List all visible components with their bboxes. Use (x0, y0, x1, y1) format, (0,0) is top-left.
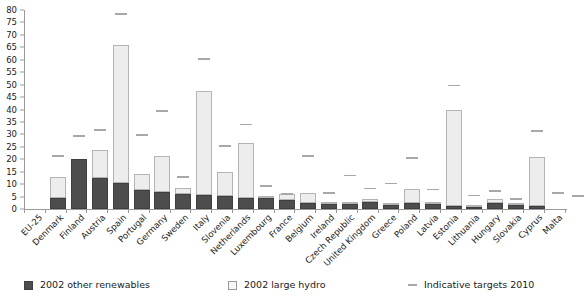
y-tick-mark (20, 72, 24, 73)
bar-segment-large-hydro (113, 45, 129, 183)
bar-group (279, 10, 295, 209)
bar-group (529, 10, 545, 209)
x-tick-mark (315, 209, 316, 213)
y-tick-label: 75 (0, 18, 17, 27)
x-axis-line (24, 209, 567, 210)
x-tick-mark (66, 209, 67, 213)
bar-segment-other-renewables (529, 206, 545, 209)
x-tick-mark (128, 209, 129, 213)
x-tick-mark (86, 209, 87, 213)
bar-group (258, 10, 274, 209)
bar-segment-other-renewables (196, 195, 212, 209)
bar-segment-other-renewables (362, 202, 378, 209)
y-tick-mark (20, 159, 24, 160)
x-tick-mark (461, 209, 462, 213)
indicative-target-marker (510, 198, 522, 200)
bar-segment-large-hydro (196, 91, 212, 194)
indicative-target-marker (323, 192, 335, 194)
indicative-target-marker (552, 192, 564, 194)
x-tick-mark (253, 209, 254, 213)
legend-item-large-hydro: 2002 large hydro (228, 280, 325, 290)
bar-segment-other-renewables (50, 198, 66, 209)
y-tick-mark (20, 97, 24, 98)
bar-group (487, 10, 503, 209)
x-tick-mark (190, 209, 191, 213)
y-tick-label: 10 (0, 180, 17, 189)
bar-segment-other-renewables (113, 183, 129, 209)
bar-segment-other-renewables (175, 194, 191, 209)
x-tick-mark (45, 209, 46, 213)
bar-segment-other-renewables (446, 206, 462, 209)
bar-segment-other-renewables (404, 203, 420, 209)
y-tick-mark (20, 109, 24, 110)
legend-item-other-renewables: 2002 other renewables (24, 280, 150, 290)
indicative-target-marker (468, 195, 480, 197)
legend-label-large-hydro: 2002 large hydro (244, 280, 325, 290)
y-tick-mark (20, 196, 24, 197)
x-tick-mark (398, 209, 399, 213)
indicative-target-marker (406, 157, 418, 159)
indicative-target-marker (344, 175, 356, 177)
bar-group (71, 10, 87, 209)
bar-segment-other-renewables (279, 200, 295, 209)
bar-segment-large-hydro (404, 189, 420, 203)
bar-group (175, 10, 191, 209)
indicative-target-marker (73, 135, 85, 137)
bar-group (217, 10, 233, 209)
indicative-target-marker (385, 183, 397, 185)
x-tick-mark (357, 209, 358, 213)
x-tick-mark (107, 209, 108, 213)
y-tick-label: 15 (0, 167, 17, 176)
legend-label-indicative-targets: Indicative targets 2010 (424, 280, 534, 290)
x-tick-mark (502, 209, 503, 213)
bar-group (134, 10, 150, 209)
y-tick-label: 55 (0, 68, 17, 77)
bar-group (383, 10, 399, 209)
y-tick-label: 25 (0, 143, 17, 152)
bar-segment-other-renewables (487, 203, 503, 209)
indicative-target-marker (136, 134, 148, 136)
y-tick-label: 30 (0, 130, 17, 139)
bar-group (113, 10, 129, 209)
indicative-target-marker (364, 188, 376, 190)
x-tick-mark (232, 209, 233, 213)
y-tick-label: 35 (0, 118, 17, 127)
indicative-target-marker (448, 85, 460, 87)
bar-segment-other-renewables (258, 198, 274, 209)
y-tick-mark (20, 184, 24, 185)
bar-segment-other-renewables (383, 205, 399, 209)
indicative-target-marker (572, 195, 584, 197)
y-tick-label: 40 (0, 105, 17, 114)
y-tick-mark (20, 84, 24, 85)
indicative-target-marker (198, 58, 210, 60)
bar-group (404, 10, 420, 209)
bar-group (92, 10, 108, 209)
indicative-target-marker (240, 124, 252, 126)
bar-group (570, 10, 586, 209)
x-tick-mark (274, 209, 275, 213)
x-tick-mark (294, 209, 295, 213)
y-tick-label: 45 (0, 93, 17, 102)
bar-segment-large-hydro (217, 172, 233, 196)
indicative-target-marker (94, 129, 106, 131)
y-tick-label: 0 (0, 205, 17, 214)
bar-segment-other-renewables (154, 192, 170, 209)
y-tick-mark (20, 47, 24, 48)
bar-group (50, 10, 66, 209)
bar-segment-other-renewables (92, 178, 108, 209)
bar-segment-other-renewables (217, 196, 233, 209)
bar-group (196, 10, 212, 209)
x-tick-mark (211, 209, 212, 213)
indicative-target-marker (531, 130, 543, 132)
indicative-target-marker (281, 193, 293, 195)
dash-line-icon (408, 284, 417, 286)
square-outline-icon (228, 281, 237, 290)
bar-group (238, 10, 254, 209)
bar-group (300, 10, 316, 209)
bar-segment-other-renewables (466, 207, 482, 209)
indicative-target-marker (177, 176, 189, 178)
y-tick-label: 60 (0, 56, 17, 65)
chart-legend: 2002 other renewables 2002 large hydro I… (0, 278, 588, 294)
bar-group (550, 10, 566, 209)
y-tick-label: 70 (0, 31, 17, 40)
